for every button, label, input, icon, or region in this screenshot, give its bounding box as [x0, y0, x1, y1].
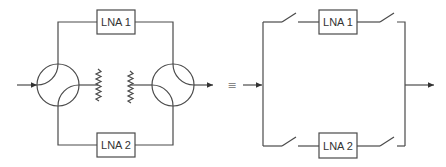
- lna2-box-left: LNA 2: [97, 133, 135, 157]
- lna1-label-left: LNA 1: [101, 16, 131, 28]
- lna1-label-right: LNA 1: [323, 16, 353, 28]
- switch-top-in-icon: [282, 13, 296, 22]
- lna2-label-right: LNA 2: [323, 140, 353, 152]
- balanced-amplifier-diagram: LNA 1 LNA 2 ≡ LN: [0, 0, 446, 167]
- termination-resistor-2-icon: [128, 71, 133, 103]
- bottom-line-left-in: [58, 106, 97, 145]
- lna1-box-right: LNA 1: [319, 10, 357, 34]
- lna2-label-left: LNA 2: [101, 139, 131, 151]
- top-line-left-out: [135, 22, 173, 64]
- output-hybrid-coupler-icon: [152, 64, 194, 106]
- bottom-line-left-out: [135, 106, 173, 145]
- lna2-box-right: LNA 2: [319, 133, 357, 158]
- top-line-left-in: [58, 22, 97, 64]
- switch-bottom-in-icon: [282, 137, 296, 146]
- right-switched-equivalent: LNA 1 LNA 2: [243, 10, 434, 158]
- left-balanced-amplifier: LNA 1 LNA 2: [17, 10, 213, 157]
- equivalence-symbol: ≡: [227, 79, 236, 92]
- switch-top-out-icon: [380, 13, 394, 22]
- lna1-box-left: LNA 1: [97, 10, 135, 34]
- switch-bottom-out-icon: [380, 137, 394, 146]
- input-hybrid-coupler-icon: [37, 64, 79, 106]
- termination-resistor-1-icon: [96, 69, 101, 101]
